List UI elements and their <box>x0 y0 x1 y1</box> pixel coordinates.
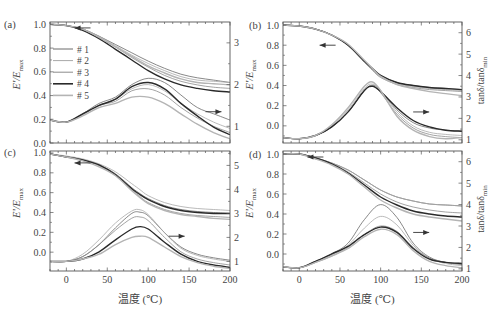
tan-delta-line <box>283 227 462 268</box>
y2-tick-label: 1 <box>234 121 239 132</box>
x-tick-label: 50 <box>102 274 112 285</box>
legend-label: # 3 <box>77 68 89 78</box>
y2-axis-title: tanδ/tanδmin <box>475 56 489 104</box>
storage-modulus-line <box>283 154 462 206</box>
x-tick-label: 100 <box>141 274 156 285</box>
y2-tick-label: 2 <box>466 113 471 124</box>
arrow-left-icon <box>75 160 81 165</box>
tan-delta-line <box>50 227 230 268</box>
legend: # 1# 2# 3# 4# 5 <box>53 45 89 101</box>
y-tick-label: 0.4 <box>34 207 47 218</box>
y-tick-label: 0.2 <box>267 100 280 111</box>
plot-frame <box>50 151 230 271</box>
y2-tick-label: 4 <box>466 199 471 210</box>
arrow-right-icon <box>179 234 185 239</box>
y-tick-label: 0.2 <box>34 227 47 238</box>
y-tick-label: 1.0 <box>34 147 47 158</box>
x-axis-title: 温度 (℃) <box>350 292 395 306</box>
y2-tick-label: 4 <box>234 184 239 195</box>
tan-delta-line <box>283 85 462 139</box>
y-tick-label: 0.0 <box>267 120 280 131</box>
x-tick-label: 100 <box>373 274 388 285</box>
arrow-left-icon <box>75 25 81 30</box>
x-tick-label: 50 <box>335 274 345 285</box>
tan-delta-line <box>283 229 462 268</box>
y2-tick-label: 5 <box>466 49 471 60</box>
panel-b: 0.00.20.40.60.81.0123456(b)E'/Emaxtanδ/t… <box>244 20 489 146</box>
legend-label: # 5 <box>77 91 89 101</box>
y2-tick-label: 1 <box>466 263 471 274</box>
x-tick-label: 150 <box>414 274 429 285</box>
y-tick-label: 0.6 <box>267 189 280 200</box>
y2-tick-label: 2 <box>234 79 239 90</box>
panel-label: (c) <box>4 147 16 159</box>
y-axis-title: E'/Emax <box>11 187 25 219</box>
y-tick-label: 0.2 <box>267 229 280 240</box>
x-axis-title: 温度 (℃) <box>118 292 163 306</box>
y-axis-title: E'/Emax <box>244 59 258 91</box>
arrow-right-icon <box>215 109 221 114</box>
arrow-right-icon <box>423 230 429 235</box>
y-tick-label: 0.6 <box>267 60 280 71</box>
x-tick-label: 0 <box>297 274 302 285</box>
y2-tick-label: 2 <box>234 232 239 243</box>
panel-label: (b) <box>249 20 262 32</box>
y-tick-label: 0.4 <box>34 90 47 101</box>
y2-tick-label: 3 <box>234 37 239 48</box>
y-tick-label: 0.2 <box>34 114 47 125</box>
y-tick-label: 0.8 <box>267 40 280 51</box>
y-tick-label: 0.6 <box>34 66 47 77</box>
panel-label: (a) <box>4 19 16 31</box>
figure: 0.00.20.40.60.81.0123(a)E'/Emax 0.00.20.… <box>0 0 501 312</box>
tan-delta-line <box>283 86 462 139</box>
y2-tick-label: 5 <box>466 178 471 189</box>
y2-tick-label: 1 <box>466 134 471 145</box>
y2-tick-label: 6 <box>466 27 471 38</box>
y-tick-label: 1.0 <box>267 149 280 160</box>
legend-label: # 4 <box>77 79 89 89</box>
y2-tick-label: 3 <box>234 208 239 219</box>
y2-axis-title: tanδ/tanδmin <box>475 185 489 233</box>
y2-tick-label: 5 <box>234 160 239 171</box>
storage-modulus-line <box>283 25 462 90</box>
panel-label: (d) <box>249 149 262 161</box>
y-tick-label: 0.6 <box>34 187 47 198</box>
y-tick-label: 0.8 <box>34 43 47 54</box>
y-tick-label: 1.0 <box>34 19 47 30</box>
legend-label: # 2 <box>77 56 89 66</box>
storage-modulus-line <box>283 154 462 206</box>
x-tick-label: 0 <box>64 274 69 285</box>
y2-tick-label: 3 <box>466 91 471 102</box>
x-tick-label: 150 <box>182 274 197 285</box>
plot-area <box>283 25 462 139</box>
x-tick-label: 200 <box>455 274 470 285</box>
storage-modulus-line <box>283 25 462 90</box>
panel-d: 050100150200温度 (℃)0.00.20.40.60.81.01234… <box>244 149 489 307</box>
y2-tick-label: 1 <box>234 256 239 267</box>
y-tick-label: 0.0 <box>34 247 47 258</box>
storage-modulus-line <box>283 25 462 91</box>
y-tick-label: 1.0 <box>267 20 280 31</box>
arrow-left-icon <box>320 43 326 48</box>
x-tick-label: 200 <box>223 274 238 285</box>
arrow-right-icon <box>423 109 429 114</box>
y-tick-label: 0.8 <box>34 167 47 178</box>
y-tick-label: 0.4 <box>267 80 280 91</box>
legend-label: # 1 <box>77 45 89 55</box>
y2-tick-label: 4 <box>466 70 471 81</box>
panel-c: 050100150200温度 (℃)0.00.20.40.60.81.01234… <box>4 147 239 306</box>
y2-tick-label: 3 <box>466 221 471 232</box>
tan-delta-line <box>283 86 462 139</box>
y-axis-title: E'/Emax <box>244 187 258 219</box>
y-tick-label: 0.4 <box>267 209 280 220</box>
y2-tick-label: 2 <box>466 242 471 253</box>
y-axis-title: E'/Emax <box>11 59 25 91</box>
plot-area <box>283 154 462 268</box>
y-tick-label: 0.8 <box>267 169 280 180</box>
y2-tick-label: 6 <box>466 156 471 167</box>
tan-delta-line <box>50 236 230 268</box>
panel-a: 0.00.20.40.60.81.0123(a)E'/Emax <box>4 19 239 149</box>
y-tick-label: 0.0 <box>267 249 280 260</box>
plot-area <box>50 154 230 269</box>
